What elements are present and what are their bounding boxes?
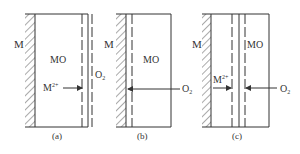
metal-hatch [116, 14, 126, 127]
panel-b: M MO O2 (b) [104, 14, 192, 141]
caption-a: (a) [52, 131, 62, 141]
metal-label: M [104, 38, 114, 50]
cation-label: M2+ [213, 74, 229, 85]
metal-label: M [14, 38, 24, 50]
caption-c: (c) [232, 131, 242, 141]
caption-b: (b) [137, 131, 148, 141]
gas-label: O2 [95, 69, 105, 81]
cation-label: M2+ [43, 82, 59, 93]
gas-label: O2 [182, 83, 192, 95]
panel-a: M MO M2+ O2 (a) [14, 14, 105, 141]
oxide-label: MO [143, 54, 159, 65]
oxidation-diagram: M MO M2+ O2 (a) M MO O2 (b) M MO M2+ O2 … [0, 0, 300, 154]
oxide-label: MO [247, 39, 263, 50]
metal-hatch [25, 14, 35, 127]
oxide-label: MO [50, 54, 66, 65]
panel-c: M MO M2+ O2 (c) [192, 14, 290, 141]
metal-label: M [192, 38, 202, 50]
gas-label: O2 [280, 83, 290, 95]
metal-hatch [202, 14, 211, 127]
